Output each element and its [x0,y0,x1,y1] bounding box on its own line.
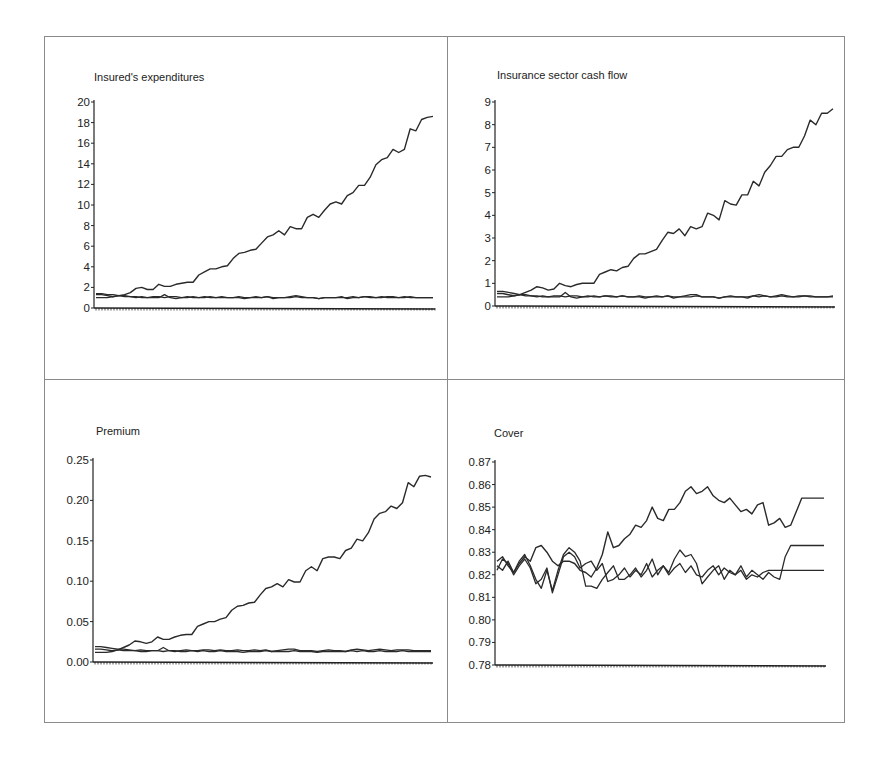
y-tick-label: 0.25 [67,454,89,466]
series-line-1 [497,487,824,577]
y-tick-label: 0.15 [67,535,89,547]
chart-canvas: 02468101214161820 0123456789 0.000.050.1… [0,0,883,760]
y-tick-label: 0.78 [469,659,491,671]
y-tick-label: 14 [77,158,90,170]
y-tick-label: 4 [485,209,492,221]
chart-insured-expenditures: 02468101214161820 [77,96,435,314]
chart-premium: 0.000.050.100.150.200.25 [67,454,433,668]
y-tick-label: 3 [485,232,491,244]
y-tick-label: 7 [485,141,491,153]
series-line-1 [96,116,433,296]
y-tick-label: 8 [485,119,491,131]
y-tick-label: 9 [485,96,491,108]
y-tick-label: 0.20 [67,494,89,506]
y-tick-label: 0.80 [469,614,491,626]
y-tick-label: 0.00 [67,656,89,668]
y-tick-label: 4 [84,261,91,273]
chart-insurance-cash-flow: 0123456789 [485,96,835,312]
y-tick-label: 20 [77,96,90,108]
y-tick-label: 0.86 [469,479,491,491]
y-tick-label: 0.83 [469,546,491,558]
y-tick-label: 8 [84,220,90,232]
series-line-1 [95,475,431,650]
y-tick-label: 10 [77,199,90,211]
y-tick-label: 0.10 [67,575,89,587]
y-tick-label: 6 [485,164,491,176]
y-tick-label: 0.81 [469,591,491,603]
y-tick-label: 18 [77,117,90,129]
y-tick-label: 12 [77,178,90,190]
y-tick-label: 0.82 [469,569,491,581]
y-tick-label: 0.05 [67,616,89,628]
y-tick-label: 2 [485,255,491,267]
chart-cover: 0.780.790.800.810.820.830.840.850.860.87 [469,456,826,671]
y-tick-label: 0.79 [469,636,491,648]
y-tick-label: 16 [77,137,90,149]
y-tick-label: 5 [485,187,491,199]
y-tick-label: 0.87 [469,456,491,468]
y-tick-label: 0 [485,300,491,312]
y-tick-label: 0 [84,302,90,314]
y-tick-label: 1 [485,277,491,289]
y-tick-label: 0.85 [469,501,491,513]
series-line-1 [497,109,833,296]
y-tick-label: 2 [84,281,90,293]
series-line-3 [96,296,433,299]
y-tick-label: 6 [84,240,90,252]
y-tick-label: 0.84 [469,524,492,536]
